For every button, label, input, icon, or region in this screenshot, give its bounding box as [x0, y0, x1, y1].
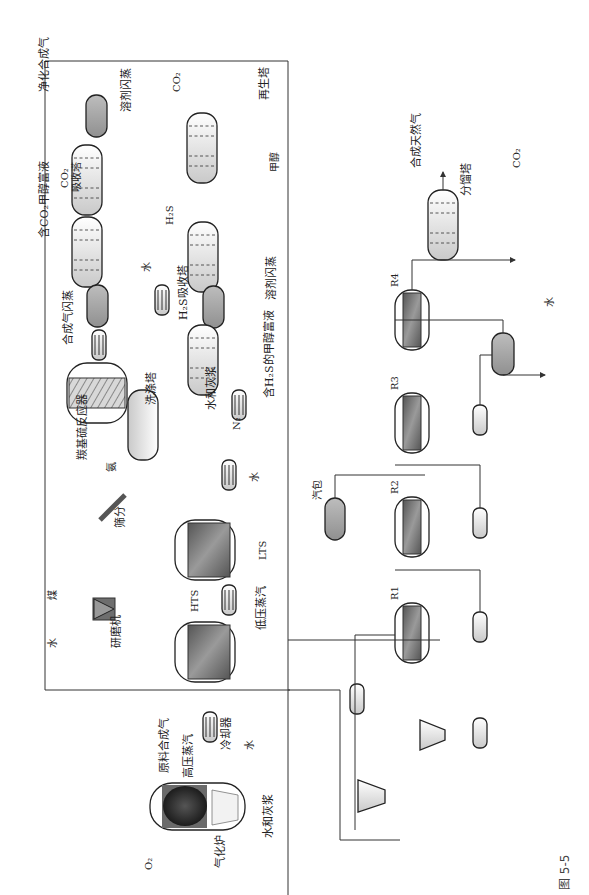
- lts-label-page: LTS: [257, 541, 268, 560]
- water-label-3-page: 水: [141, 262, 152, 272]
- water-grinder-label-page: 水: [47, 638, 58, 648]
- high-pressure-steam-label-page: 高压蒸汽: [181, 734, 195, 778]
- water-ash-slurry-label-2-page: 水和灰浆: [204, 366, 218, 410]
- r4-label: R4: [389, 273, 400, 287]
- h2s-absorber-cooler: [155, 285, 169, 315]
- hts-lts-cooler: [222, 585, 236, 615]
- solvent-flash-label-1-page: 溶剂闪蒸: [264, 256, 278, 300]
- water-label-1-page: 水: [244, 740, 255, 750]
- syngas-cooler: [92, 330, 106, 360]
- h2s-rich-methanol-label-page: 含H₂S的甲醇富液: [262, 310, 276, 398]
- low-pressure-steam-label-page: 低压蒸汽: [254, 586, 268, 630]
- r3-label: R3: [389, 376, 400, 390]
- screening-label-page: 筛分: [113, 506, 127, 528]
- hx-r3: [473, 405, 487, 435]
- figure-caption-text: 图 5-5: [555, 855, 572, 890]
- ammonia-label-page: 氨: [105, 462, 117, 472]
- gasifier-page: [150, 783, 245, 830]
- purified-syngas-label: 净化合成气: [37, 37, 51, 92]
- r2-label: R2: [389, 480, 400, 494]
- syngas-flash-label-page: 合成气闪蒸: [61, 290, 75, 345]
- gasifier-label-page: 气化炉: [213, 835, 227, 868]
- hx-r1: [473, 612, 487, 642]
- co2-out-label-2: CO₂: [511, 148, 522, 168]
- cooler-label-page: 冷却器: [220, 717, 233, 750]
- co2-out-label-1: CO₂: [171, 72, 182, 92]
- co2-rich-methanol-label: 含CO₂甲醇富液: [37, 161, 51, 238]
- compressor-1: [358, 780, 385, 812]
- h2s-wash-column: [72, 217, 102, 287]
- reactor-r2: [395, 497, 429, 557]
- h2s-out-label: H₂S: [164, 205, 175, 225]
- steam-drum: [325, 498, 345, 540]
- process-flow-diagram: 气化炉 O₂ 水和灰浆 高压蒸汽 原料合成气 冷却器 水 HTS 低压蒸汽: [0, 0, 589, 895]
- cos-reactor-label-page: 羰基硫反应器: [75, 394, 89, 460]
- steam-drum-label: 汽包: [311, 480, 323, 500]
- reactor-r3: [395, 393, 429, 453]
- regenerator-label: 再生塔: [257, 67, 271, 100]
- water-ash-slurry-label-1-page: 水和灰浆: [261, 794, 275, 838]
- h2s-concentrator: [188, 222, 218, 292]
- lts-cooler: [222, 460, 236, 490]
- n2-cooler: [232, 390, 246, 420]
- water-label-4: 水: [544, 297, 555, 307]
- co2-absorber-label-1: CO₂: [59, 168, 70, 188]
- grinder-label-page: 研磨机: [109, 615, 123, 648]
- methanol-label: 甲醇: [268, 152, 280, 172]
- recycle-cooler: [350, 684, 364, 714]
- fractionator-label: 分馏塔: [459, 163, 473, 196]
- figure-caption: 图 5-5: [553, 832, 573, 892]
- hts-label-page: HTS: [189, 590, 200, 612]
- solvent-flash-label-2: 溶剂闪蒸: [119, 68, 133, 112]
- co2-absorber-label-2: 吸收塔: [70, 162, 82, 192]
- hx-r2: [473, 508, 487, 538]
- r1-label: R1: [389, 586, 400, 600]
- flash-drum-top: [86, 95, 107, 137]
- regenerator: [187, 113, 217, 183]
- raw-syngas-label-page: 原料合成气: [157, 718, 171, 773]
- o2-label-page: O₂: [143, 858, 154, 870]
- compressor-cooler: [473, 718, 487, 748]
- solvent-flash-drum: [203, 286, 224, 328]
- raw-syngas-cooler: [203, 712, 217, 742]
- separator-drum: [492, 333, 514, 375]
- compressor-2: [420, 720, 445, 750]
- syngas-flash-drum-page: [87, 285, 108, 327]
- h2s-absorber-label-page: H₂S吸收塔: [176, 265, 190, 320]
- n2-label-page: N₂: [231, 417, 242, 430]
- sng-label: 合成天然气: [409, 113, 423, 168]
- coal-label-page: 煤: [46, 590, 58, 600]
- wash-tower-label-page: 洗涤塔: [144, 372, 158, 405]
- fractionator: [428, 190, 458, 260]
- reactor-r1: [395, 603, 429, 663]
- lts-reactor-page: [175, 520, 235, 580]
- hts-reactor-page: [175, 622, 235, 682]
- water-label-2-page: 水: [249, 472, 260, 482]
